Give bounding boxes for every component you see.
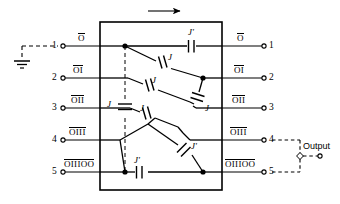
right-terminal-number-4: 4 xyxy=(269,135,274,145)
output-label: Output xyxy=(303,142,330,151)
cap-bottom-row-label: J' xyxy=(134,156,140,165)
cap-r2-diag-label: J xyxy=(152,76,156,85)
cap-r1-r2-upper-icon xyxy=(159,56,168,69)
junction-node-d xyxy=(200,169,205,174)
circuit-diagram-figure: 1 2 3 4 5 O OI OII OIII OIIIOO 1 2 3 4 5… xyxy=(0,0,340,204)
right-terminal-number-3: 3 xyxy=(269,103,274,113)
cap-r2-r3-vert-label: J xyxy=(205,104,209,113)
right-terminal-5 xyxy=(262,170,266,174)
right-terminal-number-5: 5 xyxy=(269,167,274,177)
right-signal-label-5: OIIIOO xyxy=(225,159,255,169)
branch-r4-to-r5 xyxy=(120,140,125,172)
left-terminal-2 xyxy=(61,76,65,80)
cap-bottom-row-icon xyxy=(137,166,143,179)
cap-mid-dashed-icon xyxy=(118,104,132,110)
right-terminal-3 xyxy=(262,106,266,110)
cap-r3-diag-label: J xyxy=(140,104,144,113)
left-terminal-4 xyxy=(61,138,65,142)
output-terminal-dot xyxy=(318,154,322,158)
left-signal-label-4: OIII xyxy=(69,127,86,137)
branch-r3-diag xyxy=(130,108,178,127)
junction-node-b xyxy=(200,75,205,80)
left-signal-label-1: O xyxy=(78,33,85,43)
left-signal-label-2: OI xyxy=(73,65,83,75)
dashed-center-line xyxy=(118,46,132,172)
right-signal-label-2: OI xyxy=(234,65,244,75)
cap-r4-diag-icon xyxy=(177,143,191,157)
junction-node-c xyxy=(122,169,127,174)
left-terminal-number-3: 3 xyxy=(52,103,57,113)
left-terminal-3 xyxy=(61,106,65,110)
cap-mid-dashed-label: J xyxy=(107,100,111,109)
branch-r1-to-r2 xyxy=(125,46,203,78)
junction-node-a xyxy=(122,43,127,48)
right-terminal-4 xyxy=(262,138,266,142)
left-terminal-number-5: 5 xyxy=(52,167,57,177)
right-terminal-number-1: 1 xyxy=(269,41,274,51)
left-terminal-number-4: 4 xyxy=(52,135,57,145)
right-signal-label-4: OIII xyxy=(230,127,247,137)
right-terminal-2 xyxy=(262,76,266,80)
cap-r2-r3-vert-icon xyxy=(191,93,205,102)
right-signal-label-1: O xyxy=(237,33,244,43)
left-signal-label-3: OII xyxy=(71,95,84,105)
device-boundary-box xyxy=(100,22,222,190)
left-signal-label-5: OIIIOO xyxy=(64,159,94,169)
right-signal-label-3: OII xyxy=(232,95,245,105)
branch-r2-to-nodeB xyxy=(128,78,190,102)
ground-symbol-icon xyxy=(14,61,30,68)
diagram-canvas xyxy=(0,0,340,204)
cap-top-right-icon xyxy=(189,40,195,53)
left-terminal-number-2: 2 xyxy=(52,73,57,83)
cap-r1-r2-upper-label: J xyxy=(168,53,172,62)
left-terminal-1 xyxy=(61,44,65,48)
right-terminal-dots xyxy=(262,44,266,174)
left-terminal-dots xyxy=(61,44,65,174)
right-terminal-number-2: 2 xyxy=(269,73,274,83)
right-terminal-1 xyxy=(262,44,266,48)
cap-r4-diag-label: J' xyxy=(191,142,197,151)
left-terminal-number-1: 1 xyxy=(52,41,57,51)
left-terminal-5 xyxy=(61,170,65,174)
cap-top-right-label: J' xyxy=(188,28,194,37)
